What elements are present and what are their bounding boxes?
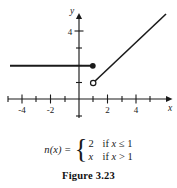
y-tick-label-4: 4 xyxy=(68,27,73,37)
figure-caption: Figure 3.23 xyxy=(0,170,177,181)
equation-case-value: x xyxy=(89,150,98,164)
x-tick-label-2: 2 xyxy=(105,105,110,115)
x-tick-label-4: 4 xyxy=(134,105,139,115)
equation-function-name: n(x) xyxy=(44,143,61,157)
x-tick-label-neg4: -4 xyxy=(18,105,26,115)
x-axis-label: x xyxy=(167,103,173,113)
y-axis-arrowhead xyxy=(76,13,82,19)
coordinate-plot: -4 -2 2 4 4 x y xyxy=(0,0,177,128)
equation-case-relation: ≤ xyxy=(119,138,125,149)
equation-case-bound: 1 xyxy=(127,151,132,162)
open-endpoint-marker xyxy=(91,80,96,85)
equation-case-if: if xyxy=(103,151,109,162)
equation-case-relation: > xyxy=(119,151,125,162)
closed-endpoint-marker xyxy=(90,63,96,69)
equation-case-variable: x xyxy=(112,138,117,149)
equation-case-condition: if x > 1 xyxy=(103,150,133,164)
equation-case-if: if xyxy=(103,138,109,149)
equation-open-brace: { xyxy=(75,139,88,160)
plot-svg: -4 -2 2 4 4 x y xyxy=(0,0,177,128)
identity-branch-ray xyxy=(94,14,167,83)
piecewise-equation: n(x) = { 2 if x ≤ 1 x if x xyxy=(0,130,177,170)
x-tick-label-neg2: -2 xyxy=(47,105,55,115)
equation-case-variable: x xyxy=(112,151,117,162)
equation-cases: 2 if x ≤ 1 x if x > 1 xyxy=(89,137,133,163)
equation-case-row: 2 if x ≤ 1 xyxy=(89,137,133,150)
equation-case-bound: 1 xyxy=(127,138,132,149)
equation-case-row: x if x > 1 xyxy=(89,150,133,163)
x-axis-arrowhead xyxy=(166,96,173,102)
figure-3-23: -4 -2 2 4 4 x y n(x) = { 2 if x ≤ 1 xyxy=(0,0,177,188)
y-axis-label: y xyxy=(69,6,75,16)
equation-equals-sign: = xyxy=(65,143,71,157)
